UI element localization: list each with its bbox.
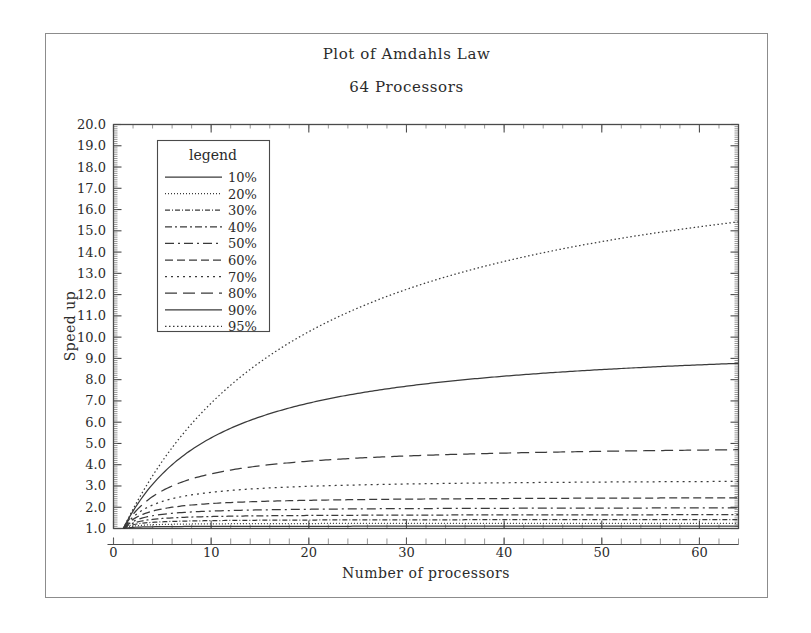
y-tick-label: 3.0 <box>85 478 106 493</box>
legend-label-95pct: 95% <box>228 319 257 334</box>
legend-label-10pct: 10% <box>228 170 257 185</box>
y-tick-label: 17.0 <box>77 181 106 196</box>
legend: legend 10%20%30%40%50%60%70%80%90%95% <box>158 141 270 335</box>
y-tick-label: 15.0 <box>77 223 106 238</box>
y-tick-label: 4.0 <box>85 457 106 472</box>
y-axis-title: Speed up <box>62 291 78 362</box>
y-tick-label: 18.0 <box>77 160 106 175</box>
y-tick-label: 6.0 <box>85 415 106 430</box>
legend-label-90pct: 90% <box>228 303 257 318</box>
curve-50pct <box>123 508 738 529</box>
legend-label-70pct: 70% <box>228 270 257 285</box>
chart-canvas: 1.02.03.04.05.06.07.08.09.010.011.012.01… <box>0 0 811 633</box>
legend-title: legend <box>189 147 237 163</box>
x-tick-label: 10 <box>203 545 220 560</box>
curve-70pct <box>123 481 738 528</box>
y-tick-label: 8.0 <box>85 372 106 387</box>
y-tick-label: 16.0 <box>77 202 106 217</box>
figure-page: Plot of Amdahls Law 64 Processors 1.02.0… <box>0 0 811 633</box>
curve-60pct <box>123 498 738 529</box>
legend-label-30pct: 30% <box>228 203 257 218</box>
legend-label-20pct: 20% <box>228 187 257 202</box>
x-tick-label: 50 <box>594 545 611 560</box>
y-axis-tick-labels: 1.02.03.04.05.06.07.08.09.010.011.012.01… <box>77 117 106 536</box>
legend-label-80pct: 80% <box>228 286 257 301</box>
x-tick-label: 20 <box>301 545 318 560</box>
x-axis-tick-labels: 0102030405060 <box>109 545 707 560</box>
x-tick-label: 60 <box>691 545 708 560</box>
y-tick-label: 13.0 <box>77 266 106 281</box>
y-tick-label: 11.0 <box>77 308 106 323</box>
y-tick-label: 19.0 <box>77 138 106 153</box>
x-tick-label: 30 <box>398 545 415 560</box>
x-tick-label: 40 <box>496 545 513 560</box>
y-tick-label: 2.0 <box>85 500 106 515</box>
y-tick-label: 9.0 <box>85 351 106 366</box>
y-tick-label: 10.0 <box>77 330 106 345</box>
curve-30pct <box>123 520 738 529</box>
y-tick-label: 7.0 <box>85 393 106 408</box>
y-tick-label: 12.0 <box>77 287 106 302</box>
y-tick-label: 1.0 <box>85 521 106 536</box>
y-tick-label: 20.0 <box>77 117 106 132</box>
y-tick-label: 5.0 <box>85 436 106 451</box>
x-axis-title: Number of processors <box>342 565 510 581</box>
x-tick-label: 0 <box>109 545 117 560</box>
legend-label-40pct: 40% <box>228 220 257 235</box>
legend-label-60pct: 60% <box>228 253 257 268</box>
legend-label-50pct: 50% <box>228 236 257 251</box>
y-tick-label: 14.0 <box>77 245 106 260</box>
